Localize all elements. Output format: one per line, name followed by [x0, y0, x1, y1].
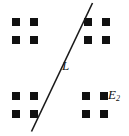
set-label-e2: E2 — [108, 88, 120, 101]
lattice-diagram: L E2 — [0, 0, 129, 136]
set-label-e2-base: E — [108, 87, 116, 102]
set-label-e2-subscript: 2 — [116, 94, 120, 103]
line-label-l: L — [62, 59, 69, 72]
